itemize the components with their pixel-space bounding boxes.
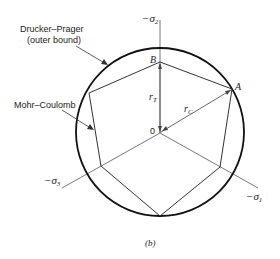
r-t-arrowhead (158, 63, 162, 69)
point-b-label: B (150, 54, 156, 65)
figure-caption: (b) (145, 238, 156, 248)
point-a-label: A (234, 81, 242, 92)
drucker-prager-leader (76, 46, 106, 64)
drucker-prager-label: Drucker–Prager (20, 24, 84, 34)
r-t-tail-arrowhead (158, 126, 162, 132)
r-c-tail-arrowhead (162, 126, 168, 131)
mohr-coulomb-hexagon (89, 62, 232, 216)
origin-label: 0 (150, 126, 155, 136)
r-c-vector (161, 90, 231, 132)
sigma1-axis-label: −σ1 (246, 190, 262, 204)
r-c-label: rC (184, 103, 193, 116)
drucker-prager-sublabel: (outer bound) (27, 35, 81, 45)
yield-surface-diagram: Drucker–Prager (outer bound) Mohr–Coulom… (0, 0, 280, 259)
r-c-arrowhead (225, 90, 231, 95)
sigma2-axis-label: −σ2 (142, 12, 159, 26)
r-t-label: rT (149, 91, 158, 104)
mohr-coulomb-leader-arrowhead (87, 124, 94, 130)
mohr-coulomb-label: Mohr–Coulomb (14, 100, 76, 110)
sigma3-axis-label: −σ3 (44, 174, 61, 188)
